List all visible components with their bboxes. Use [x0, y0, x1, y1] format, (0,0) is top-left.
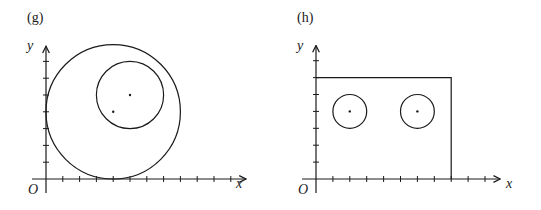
center-point [112, 111, 114, 113]
center-point [349, 110, 351, 112]
origin-label: O [298, 182, 308, 197]
y-axis-label: y [295, 38, 304, 53]
y-axis-label: y [25, 38, 34, 53]
panel-label: (h) [297, 10, 314, 26]
diagram-canvas: (g) y x O (h) y x O [0, 0, 541, 210]
origin-label: O [28, 182, 38, 197]
center-point [129, 94, 131, 96]
panel-label: (g) [27, 10, 44, 26]
x-axis-label: x [235, 176, 243, 191]
panel-g: (g) y x O [25, 10, 246, 197]
x-axis-label: x [505, 176, 513, 191]
center-point [416, 110, 418, 112]
axes [32, 46, 246, 193]
shapes [46, 45, 180, 179]
shapes [316, 78, 451, 179]
panel-h: (h) y x O [295, 10, 513, 197]
rectangle-shape [316, 78, 451, 179]
axes [302, 45, 500, 193]
